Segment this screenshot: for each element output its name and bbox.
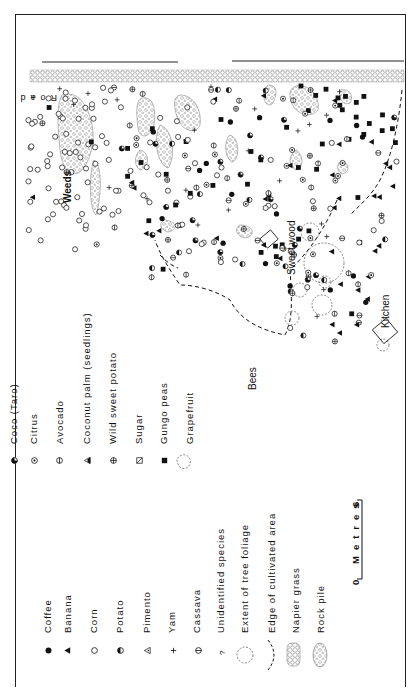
legend-label-napier: Napier grass xyxy=(290,567,301,633)
gungo-plant-icon xyxy=(349,311,354,316)
gungo-plant-icon xyxy=(146,218,151,223)
coco-plant-icon xyxy=(268,197,273,202)
citrus-icon xyxy=(32,458,38,464)
potato-plant-icon xyxy=(226,88,231,93)
coffee-plant-icon xyxy=(351,273,356,278)
corn-plant-icon xyxy=(64,131,69,136)
avocado-plant-icon xyxy=(140,91,145,96)
legend-label-yam: Yam xyxy=(166,611,177,633)
unidentified-icon: ? xyxy=(218,650,227,655)
gungo-plant-icon xyxy=(367,121,372,126)
gungo-plant-icon xyxy=(324,87,329,92)
legend-label-gungo: Gungo peas xyxy=(158,382,169,444)
corn-plant-icon xyxy=(186,249,191,254)
corn-plant-icon xyxy=(76,116,81,121)
coffee-icon xyxy=(46,648,52,654)
legend-label-citrus: Citrus xyxy=(28,413,39,444)
legend-label-cassava: Cassava xyxy=(191,589,202,633)
bees-label: Bees xyxy=(247,367,258,390)
gungo-plant-icon xyxy=(245,182,250,187)
citrus-plant-icon xyxy=(310,252,315,257)
cassava-plant-icon xyxy=(226,198,231,203)
gungo-plant-icon xyxy=(47,105,52,110)
potato-plant-icon xyxy=(177,250,182,255)
gungo-plant-icon xyxy=(380,128,385,133)
wild-plant-icon xyxy=(379,213,384,218)
corn-plant-icon xyxy=(218,260,223,265)
banana-plant-icon xyxy=(376,243,381,249)
corn-plant-icon xyxy=(233,257,238,262)
avocado-plant-icon xyxy=(175,223,180,228)
banana-plant-icon xyxy=(336,141,341,147)
avocado-plant-icon xyxy=(356,282,361,287)
coffee-plant-icon xyxy=(151,129,156,134)
banana-plant-icon xyxy=(390,183,395,189)
yam-plant-icon xyxy=(296,129,301,134)
coco-plant-icon xyxy=(190,218,195,223)
yam-icon xyxy=(171,648,176,653)
corn-plant-icon xyxy=(73,247,78,252)
coffee-plant-icon xyxy=(354,123,359,128)
avocado-plant-icon xyxy=(332,311,337,316)
potato-plant-icon xyxy=(170,141,175,146)
potato-plant-icon xyxy=(215,87,220,92)
coffee-plant-icon xyxy=(228,119,233,124)
gungo-plant-icon xyxy=(296,165,301,170)
coco-plant-icon xyxy=(392,115,397,120)
corn-plant-icon xyxy=(99,134,104,139)
gungo-plant-icon xyxy=(188,191,193,196)
avocado-plant-icon xyxy=(346,271,351,276)
coffee-plant-icon xyxy=(363,300,368,305)
cassava-plant-icon xyxy=(357,313,362,318)
citrus-plant-icon xyxy=(204,182,209,187)
gungo-plant-icon xyxy=(89,140,94,145)
wild-plant-icon xyxy=(311,206,316,211)
corn-plant-icon xyxy=(113,188,118,193)
corn-plant-icon xyxy=(60,116,65,121)
corn-plant-icon xyxy=(106,157,111,162)
corn-plant-icon xyxy=(48,152,53,157)
citrus-plant-icon xyxy=(340,160,345,165)
corn-plant-icon xyxy=(83,105,88,110)
corn-plant-icon xyxy=(91,116,96,121)
garden-map: ? xyxy=(0,0,411,689)
corn-plant-icon xyxy=(272,204,277,209)
road-label: Road xyxy=(15,93,57,103)
legend-label-unidentified: Unidentified species xyxy=(215,528,226,633)
gungo-peas-icon xyxy=(162,458,167,463)
citrus-plant-icon xyxy=(300,177,305,182)
banana-plant-icon xyxy=(338,281,343,287)
legend-label-rock: Rock pile xyxy=(315,585,326,633)
potato-icon xyxy=(118,648,124,654)
cassava-plant-icon xyxy=(209,87,214,92)
legend-label-pimento: Pimento xyxy=(141,591,152,633)
cultivated-edge-icon xyxy=(268,640,274,670)
corn-plant-icon xyxy=(108,88,113,93)
coffee-plant-icon xyxy=(229,192,234,197)
corn-plant-icon xyxy=(141,193,146,198)
wild-plant-icon xyxy=(40,121,45,126)
gungo-plant-icon xyxy=(354,115,359,120)
avocado-plant-icon xyxy=(237,98,242,103)
coco-plant-icon xyxy=(119,146,124,151)
corn-plant-icon xyxy=(38,238,43,243)
gungo-plant-icon xyxy=(313,93,318,98)
coco-plant-icon xyxy=(218,250,223,255)
yam-plant-icon xyxy=(86,91,91,96)
corn-plant-icon xyxy=(185,137,190,142)
coco-plant-icon xyxy=(297,226,302,231)
citrus-plant-icon xyxy=(333,178,338,183)
legend-label-coffee: Coffee xyxy=(42,599,53,633)
coffee-plant-icon xyxy=(257,115,262,120)
citrus-plant-icon xyxy=(212,152,217,157)
avocado-icon xyxy=(57,458,63,464)
coco-plant-icon xyxy=(238,172,243,177)
citrus-plant-icon xyxy=(134,142,139,147)
coffee-plant-icon xyxy=(287,283,292,288)
corn-plant-icon xyxy=(379,218,384,223)
potato-plant-icon xyxy=(322,277,327,282)
corn-plant-icon xyxy=(93,145,98,150)
avocado-plant-icon xyxy=(211,240,216,245)
corn-plant-icon xyxy=(63,90,68,95)
legend-label-edge: Edge of cultivated area xyxy=(266,513,277,633)
